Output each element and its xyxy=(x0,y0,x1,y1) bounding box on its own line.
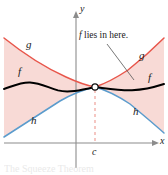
figure-caption: The Squeeze Theorem xyxy=(4,163,94,174)
open-point-marker xyxy=(92,84,98,90)
caption-strip: The Squeeze Theorem xyxy=(0,159,168,175)
annotation-label: f lies in here. xyxy=(79,31,128,41)
figure-canvas xyxy=(0,0,168,175)
annotation-label-rest: lies in here. xyxy=(82,30,128,40)
x-axis-arrow xyxy=(152,140,159,146)
shaded-region-right xyxy=(95,38,164,133)
squeeze-theorem-figure: f lies in here. g g f f h h y x c The Sq… xyxy=(0,0,168,175)
y-axis-arrow xyxy=(73,11,79,18)
